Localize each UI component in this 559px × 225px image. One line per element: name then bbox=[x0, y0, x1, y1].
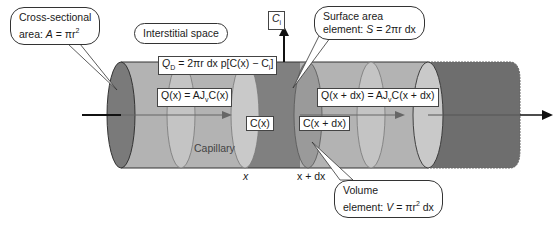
qx-equation: Q(x) = AJvC(x) bbox=[157, 88, 232, 107]
qd-equation: QD = 2πr dx p[C(x) − Ci] bbox=[158, 56, 277, 75]
x-dx-position-label: x + dx bbox=[297, 170, 325, 182]
slice-x bbox=[231, 62, 259, 168]
cx-label: C(x) bbox=[246, 116, 274, 131]
callout-line: Cross-sectional bbox=[19, 11, 91, 24]
x-position-label: x bbox=[243, 170, 248, 182]
surface-area-callout: Surface area element: S = 2πr dx bbox=[314, 6, 425, 40]
callout-line: element: S = 2πr dx bbox=[323, 23, 416, 36]
callout-line: Volume bbox=[343, 184, 434, 197]
volume-callout: Volume element: V = πr2 dx bbox=[334, 180, 443, 218]
callout-line: area: A = πr2 bbox=[19, 24, 91, 41]
callout-line: Surface area bbox=[323, 10, 416, 23]
cross-section-callout: Cross-sectional area: A = πr2 bbox=[10, 7, 100, 45]
capillary-label: Capillary bbox=[194, 142, 235, 154]
cxdx-label: C(x + dx) bbox=[299, 116, 350, 131]
interstitial-space-label: Interstitial space bbox=[134, 23, 228, 44]
cross-section-pointer bbox=[68, 44, 117, 90]
ci-label: Ci bbox=[268, 11, 285, 30]
qxdx-equation: Q(x + dx) = AJvC(x + dx) bbox=[317, 88, 439, 107]
callout-line: element: V = πr2 dx bbox=[343, 197, 434, 214]
